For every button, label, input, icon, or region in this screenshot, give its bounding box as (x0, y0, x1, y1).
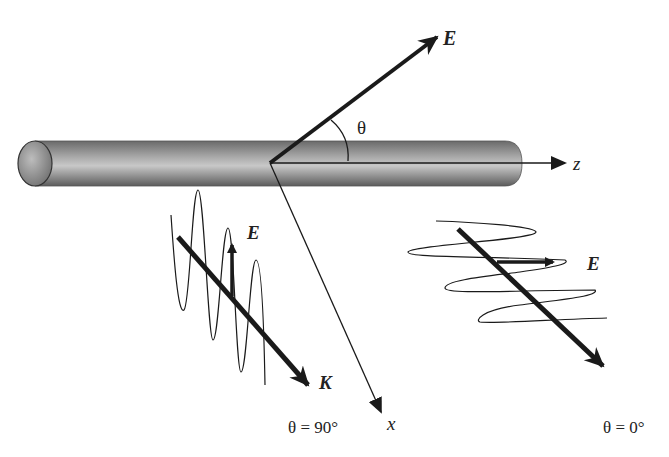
wave-theta-90: E K θ = 90° (171, 190, 338, 437)
dipole-field-diagram: z x E θ E K θ = 90° E θ = 0° (0, 0, 669, 457)
wave-theta-0: E θ = 0° (408, 221, 645, 437)
e-right-label: E (586, 253, 600, 274)
theta-90-caption: θ = 90° (288, 418, 338, 437)
sine-wave-horizontal (408, 221, 607, 322)
k-propagation-vector-right (458, 229, 603, 366)
e-main-label: E (442, 27, 456, 49)
theta-label: θ (357, 117, 366, 138)
sine-wave-vertical (171, 190, 265, 385)
k-propagation-vector (178, 237, 308, 385)
theta-0-caption: θ = 0° (603, 418, 645, 437)
z-axis-label: z (572, 153, 581, 174)
k-label: K (318, 372, 333, 393)
rod-end-cap (18, 141, 52, 186)
e-left-label: E (246, 222, 260, 243)
x-axis-label: x (386, 413, 396, 434)
